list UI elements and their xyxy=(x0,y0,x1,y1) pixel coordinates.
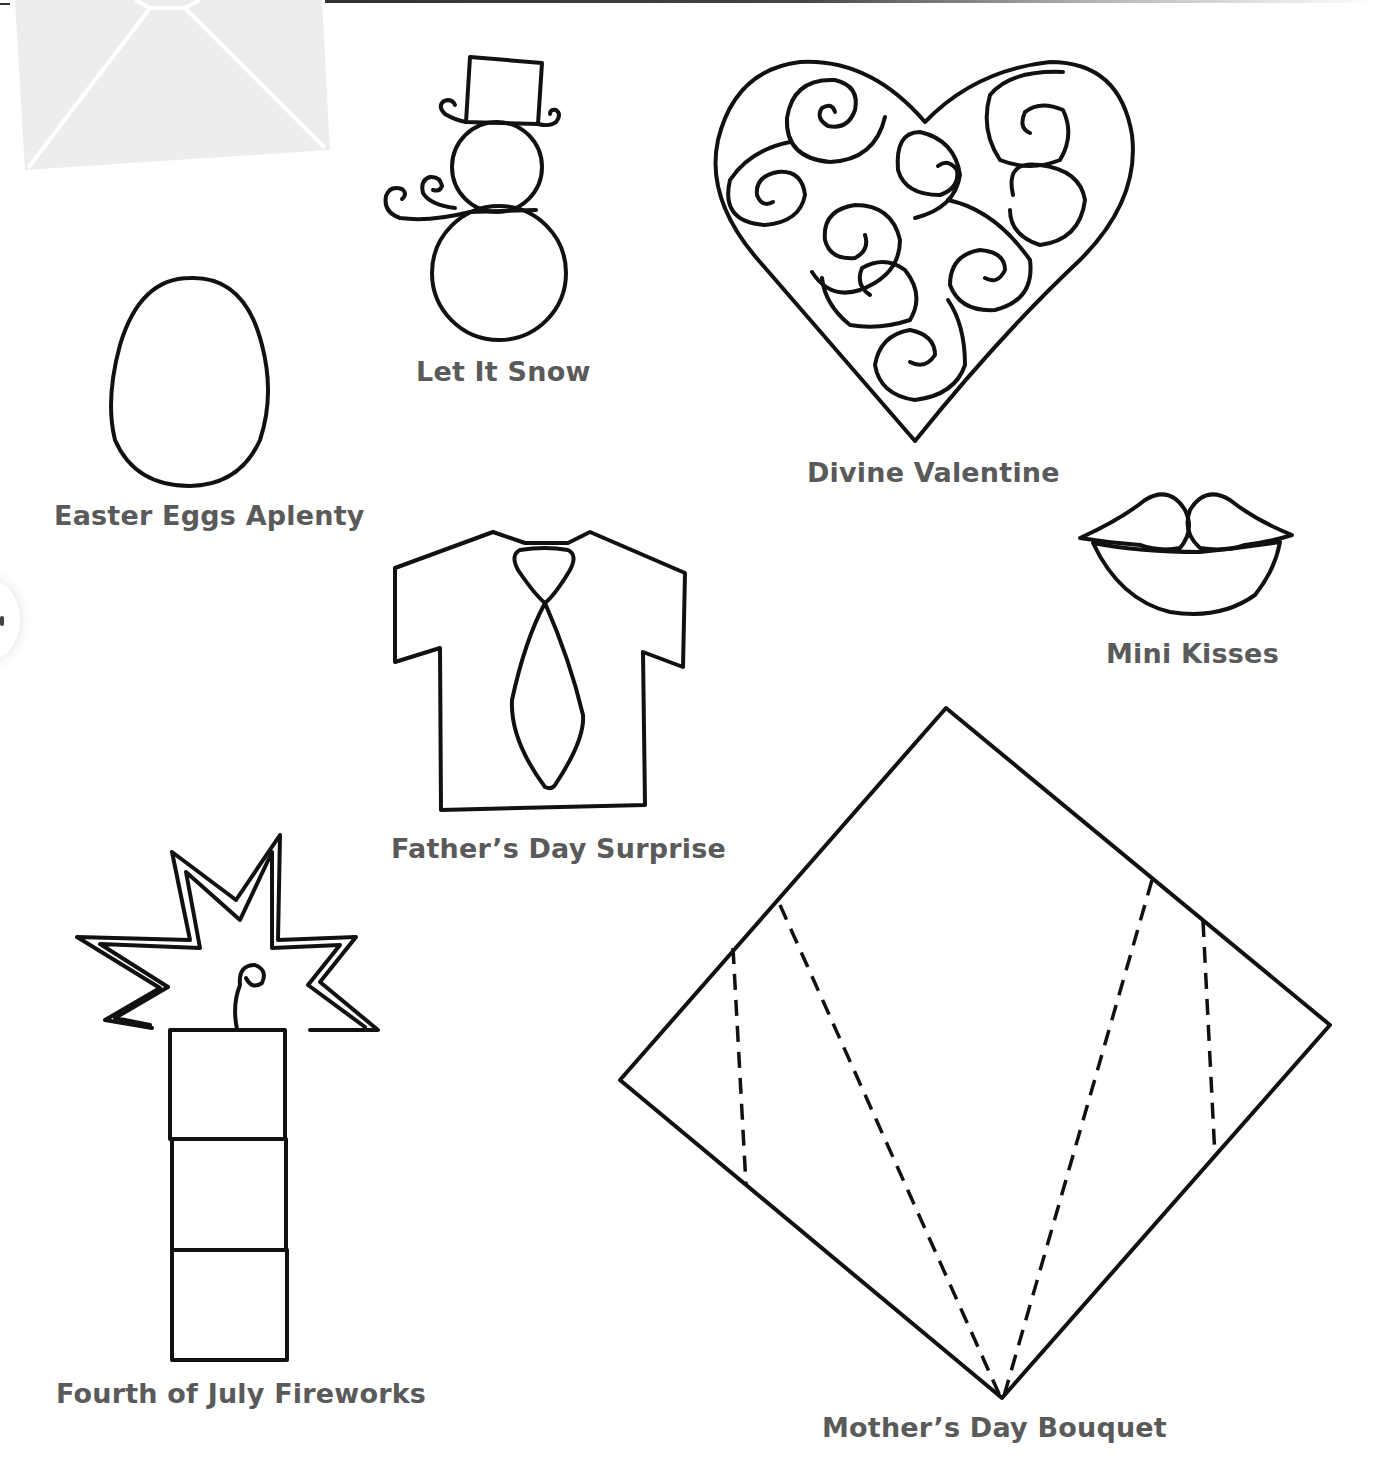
template-label-divine-valentine: Divine Valentine xyxy=(807,457,1060,488)
header-rule xyxy=(325,0,1377,3)
firework-starburst-icon xyxy=(70,825,390,1370)
template-label-let-it-snow: Let It Snow xyxy=(416,356,591,387)
diamond-fold-icon xyxy=(615,700,1340,1405)
envelope-icon xyxy=(0,0,340,180)
template-label-easter-eggs-aplenty: Easter Eggs Aplenty xyxy=(54,500,365,531)
page-edge-marker xyxy=(0,616,4,626)
template-label-fourth-of-july-fireworks: Fourth of July Fireworks xyxy=(56,1378,426,1409)
egg-icon xyxy=(100,270,280,490)
lips-icon xyxy=(1070,485,1310,625)
template-label-mothers-day-bouquet: Mother’s Day Bouquet xyxy=(822,1412,1167,1443)
template-label-mini-kisses: Mini Kisses xyxy=(1106,638,1279,669)
snowman-icon xyxy=(370,50,590,350)
swirl-heart-icon xyxy=(700,50,1150,450)
